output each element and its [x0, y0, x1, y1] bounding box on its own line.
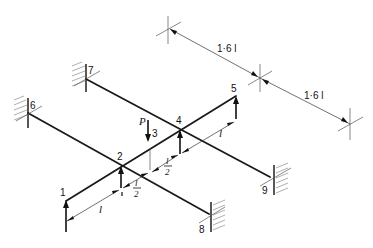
dim-label-1-2: l [99, 203, 102, 215]
dim-label-2-3: l 2 [133, 178, 141, 199]
dim-label-top-2: 1·6 l [304, 90, 323, 101]
reaction-arrow-1 [63, 200, 69, 232]
dim-label-4-5: l [219, 127, 222, 139]
svg-text:2: 2 [165, 167, 170, 177]
top-dimension: 1·6 l 1·6 l [156, 16, 363, 140]
node-label-1: 1 [60, 187, 66, 198]
node-label-5: 5 [231, 83, 237, 94]
dim-label-top-1: 1·6 l [217, 43, 236, 54]
node-label-9: 9 [262, 185, 268, 196]
reaction-arrow-5 [233, 96, 239, 119]
node-label-4: 4 [176, 115, 182, 126]
load-arrow-p [145, 120, 151, 142]
reaction-arrow-4 [177, 130, 183, 154]
lower-dimension [67, 122, 234, 221]
load-label-p: P [138, 115, 146, 127]
node-label-2: 2 [117, 151, 123, 162]
node-label-8: 8 [199, 224, 205, 235]
node-label-3: 3 [152, 128, 158, 139]
support-6 [14, 96, 42, 128]
node-label-7: 7 [88, 65, 94, 76]
node-label-6: 6 [30, 100, 36, 111]
support-7 [72, 62, 100, 92]
dim-label-3-4: l 2 [164, 156, 172, 177]
svg-text:2: 2 [134, 189, 139, 199]
grillage-diagram: 1·6 l 1·6 l 6 7 [0, 0, 373, 248]
